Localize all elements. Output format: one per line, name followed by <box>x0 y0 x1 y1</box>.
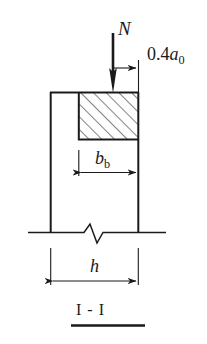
axial-load-arrow <box>109 33 117 93</box>
figure-root: N 0.4a0 bb h I - I <box>0 0 207 344</box>
eccentricity-dimension-label: 0.4a0 <box>147 45 185 63</box>
beam-width-dimension-label: bb <box>95 149 110 167</box>
eccentricity-dimension <box>113 60 139 92</box>
break-line <box>28 224 166 243</box>
eccentricity-symbol: a <box>170 44 179 64</box>
eccentricity-subscript: 0 <box>179 53 185 67</box>
section-title-label: I - I <box>76 302 105 318</box>
section-depth-dimension-label: h <box>90 257 99 275</box>
hatched-bearing-block <box>78 93 139 141</box>
eccentricity-prefix: 0.4 <box>147 44 170 64</box>
beam-width-subscript: b <box>104 157 110 171</box>
beam-width-symbol: b <box>95 148 104 168</box>
axial-load-label: N <box>118 19 131 38</box>
